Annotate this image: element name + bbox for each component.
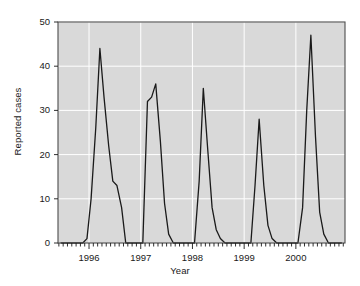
x-tick-label: 1997: [121, 252, 161, 263]
x-tick-label: 2000: [276, 252, 316, 263]
y-axis-title: Reported cases: [12, 67, 23, 177]
y-tick-label: 0: [24, 237, 50, 248]
line-chart-svg: [0, 0, 360, 286]
x-tick-label: 1996: [69, 252, 109, 263]
y-tick-label: 10: [24, 193, 50, 204]
plot-area-wrapper: [0, 0, 360, 286]
y-tick-label: 50: [24, 16, 50, 27]
x-tick-label: 1998: [172, 252, 212, 263]
x-axis-title: Year: [0, 265, 360, 276]
y-tick-label: 30: [24, 104, 50, 115]
chart-figure: Reported cases Year 01020304050 19961997…: [0, 0, 360, 286]
y-tick-label: 20: [24, 149, 50, 160]
y-tick-label: 40: [24, 60, 50, 71]
x-tick-label: 1999: [224, 252, 264, 263]
